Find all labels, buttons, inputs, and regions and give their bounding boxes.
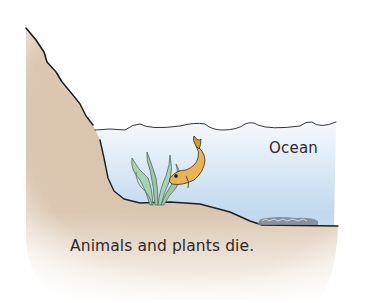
caption: Animals and plants die. xyxy=(70,237,254,255)
ocean-label: Ocean xyxy=(269,139,318,157)
sediment-remains xyxy=(258,217,318,225)
